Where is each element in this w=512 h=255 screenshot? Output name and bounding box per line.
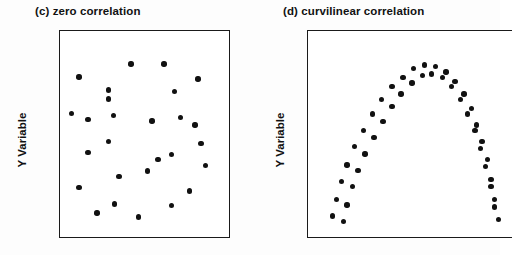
panel-c-y-axis-label: Y Variable xyxy=(16,100,28,180)
scatter-point xyxy=(398,91,403,96)
scatter-point xyxy=(112,201,117,206)
scatter-point xyxy=(178,115,183,120)
scatter-point xyxy=(145,168,150,173)
scatter-point xyxy=(334,197,339,202)
scatter-point xyxy=(198,141,203,146)
scatter-point xyxy=(69,111,74,116)
scatter-point xyxy=(496,217,501,222)
scatter-point xyxy=(106,87,111,92)
panel-d-plot-area xyxy=(307,30,512,238)
scatter-point xyxy=(136,214,141,219)
scatter-point xyxy=(187,188,192,193)
scatter-point xyxy=(341,219,346,224)
scatter-point xyxy=(339,179,344,184)
scatter-point xyxy=(128,61,133,66)
scatter-point xyxy=(452,79,457,84)
scatter-point xyxy=(479,139,484,144)
panel-c-title: (c) zero correlation xyxy=(35,5,141,17)
panel-d-scatter-layer xyxy=(308,31,512,237)
scatter-point xyxy=(344,202,349,207)
scatter-point xyxy=(85,150,90,155)
scatter-point xyxy=(169,152,174,157)
panel-d-y-axis-label: Y Variable xyxy=(274,100,286,180)
scatter-point xyxy=(106,139,111,144)
scatter-point xyxy=(420,73,425,78)
scatter-point xyxy=(116,174,121,179)
scatter-point xyxy=(149,118,154,123)
scatter-point xyxy=(389,84,394,89)
scatter-point xyxy=(370,111,375,116)
scatter-point xyxy=(379,97,384,102)
scatter-point xyxy=(485,157,490,162)
scatter-point xyxy=(465,111,470,116)
scatter-point xyxy=(411,66,416,71)
scatter-point xyxy=(380,119,385,124)
scatter-point xyxy=(492,197,497,202)
scatter-point xyxy=(488,177,493,182)
scatter-point xyxy=(474,122,479,127)
scatter-point xyxy=(433,64,438,69)
scatter-point xyxy=(472,128,477,133)
scatter-point xyxy=(352,144,357,149)
scatter-point xyxy=(461,91,466,96)
scatter-point xyxy=(344,162,349,167)
scatter-point xyxy=(76,185,81,190)
scatter-point xyxy=(362,151,367,156)
scatter-point xyxy=(488,184,493,189)
scatter-point xyxy=(350,184,355,189)
panel-c-scatter-layer xyxy=(60,31,229,237)
scatter-point xyxy=(161,61,166,66)
scatter-point xyxy=(355,168,360,173)
scatter-point xyxy=(449,84,454,89)
scatter-point xyxy=(361,128,366,133)
scatter-point xyxy=(106,96,111,101)
scatter-point xyxy=(371,135,376,140)
scatter-point xyxy=(422,62,427,67)
scatter-point xyxy=(192,122,197,127)
scatter-point xyxy=(440,75,445,80)
scatter-point xyxy=(483,164,488,169)
panel-d-title: (d) curvilinear correlation xyxy=(283,5,424,17)
scatter-point xyxy=(85,117,90,122)
scatter-point xyxy=(492,204,497,209)
scatter-point xyxy=(203,163,208,168)
scatter-point xyxy=(172,89,177,94)
scatter-point xyxy=(94,210,99,215)
scatter-point xyxy=(169,203,174,208)
scatter-point xyxy=(478,146,483,151)
panel-c-plot-area xyxy=(59,30,230,238)
scatter-point xyxy=(458,97,463,102)
scatter-point xyxy=(429,71,434,76)
scatter-point xyxy=(409,80,414,85)
scatter-point xyxy=(155,157,160,162)
scatter-point xyxy=(389,104,394,109)
scatter-point xyxy=(111,113,116,118)
scatter-point xyxy=(469,106,474,111)
scatter-point xyxy=(443,69,448,74)
scatter-point xyxy=(330,213,335,218)
scatter-point xyxy=(400,75,405,80)
scatter-point xyxy=(76,74,81,79)
scatter-point xyxy=(195,76,200,81)
